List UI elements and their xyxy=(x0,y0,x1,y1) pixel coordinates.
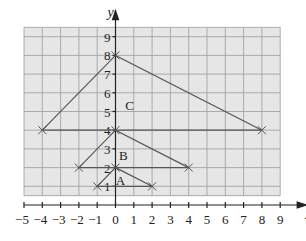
x-tick-label: 9 xyxy=(277,212,284,227)
x-tick-label: 3 xyxy=(167,212,174,227)
x-axis-label: x xyxy=(304,207,306,222)
x-tick-label: −3 xyxy=(52,212,66,227)
x-tick-label: −4 xyxy=(33,212,47,227)
shape-label: A xyxy=(116,173,126,188)
x-tick-label: −2 xyxy=(70,212,84,227)
x-tick-label: −1 xyxy=(88,212,102,227)
y-tick-label: 5 xyxy=(104,105,111,120)
x-tick-label: 5 xyxy=(204,212,211,227)
shape-label: B xyxy=(119,148,128,163)
y-axis-label: y xyxy=(106,5,115,20)
y-tick-label: 6 xyxy=(104,86,111,101)
y-tick-label: 9 xyxy=(104,30,111,45)
x-tick-label: 6 xyxy=(222,212,229,227)
x-tick-label: 7 xyxy=(240,212,247,227)
x-tick-label: 2 xyxy=(149,212,156,227)
y-tick-label: 3 xyxy=(104,142,111,157)
x-tick-label: 1 xyxy=(131,212,138,227)
x-tick-label: 0 xyxy=(112,212,119,227)
x-tick-label: 8 xyxy=(259,212,266,227)
shape-label: C xyxy=(125,98,134,113)
coordinate-grid: −5−4−3−2−10123456789123456789xyABC xyxy=(0,0,306,241)
y-tick-label: 7 xyxy=(104,67,111,82)
x-tick-label: −5 xyxy=(15,212,29,227)
x-tick-label: 4 xyxy=(185,212,192,227)
